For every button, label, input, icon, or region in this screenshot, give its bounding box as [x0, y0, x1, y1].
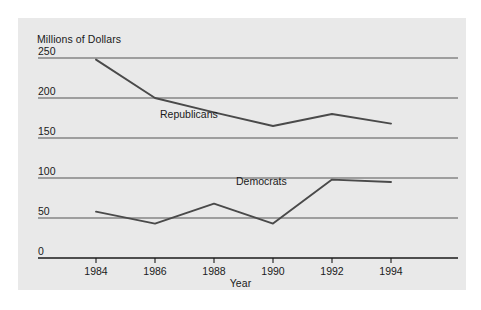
y-tick-label: 100 — [38, 165, 56, 177]
y-tick-label: 150 — [38, 125, 56, 137]
series-label-republicans: Republicans — [160, 108, 218, 120]
y-tick-label: 0 — [38, 245, 44, 257]
series-line-republicans — [96, 60, 391, 126]
x-tick-label: 1992 — [310, 265, 354, 277]
x-tick-label: 1988 — [192, 265, 236, 277]
series-label-democrats: Democrats — [236, 175, 287, 187]
gridlines-group — [38, 58, 458, 258]
chart-figure: Millions of Dollars Year 250200150100500… — [0, 0, 481, 310]
y-tick-label: 250 — [38, 45, 56, 57]
x-tick-label: 1986 — [133, 265, 177, 277]
chart-plot-area — [0, 0, 481, 310]
x-axis-title: Year — [0, 277, 481, 289]
y-tick-label: 50 — [38, 205, 50, 217]
x-tick-label: 1990 — [251, 265, 295, 277]
y-axis-title: Millions of Dollars — [37, 33, 121, 45]
series-lines-group — [96, 60, 391, 224]
y-tick-label: 200 — [38, 85, 56, 97]
x-tick-label: 1984 — [74, 265, 118, 277]
x-tick-label: 1994 — [369, 265, 413, 277]
